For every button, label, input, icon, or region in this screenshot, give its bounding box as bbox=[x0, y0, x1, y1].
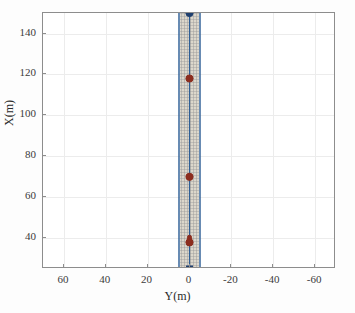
y-axis-title: X(m) bbox=[2, 100, 17, 126]
x-axis-tick-label: -20 bbox=[210, 273, 250, 285]
obstacle-markers-marker bbox=[186, 75, 193, 82]
y-axis-tick-label: 40 bbox=[12, 230, 36, 242]
y-axis-tick-mark bbox=[42, 237, 46, 238]
figure-canvas: 4060801001201406040200-20-40-60 X(m) Y(m… bbox=[0, 0, 355, 313]
x-axis-tick-label: -60 bbox=[294, 273, 334, 285]
y-axis-tick-mark bbox=[42, 114, 46, 115]
x-axis-tick-mark bbox=[147, 264, 148, 268]
vehicle-goal-marker-marker bbox=[186, 12, 193, 17]
y-axis-tick-label: 120 bbox=[12, 66, 36, 78]
ego-vehicle-body bbox=[187, 235, 191, 245]
obstacle-markers-marker bbox=[186, 173, 193, 180]
y-axis-tick-label: 140 bbox=[12, 26, 36, 38]
x-axis-tick-mark bbox=[314, 264, 315, 268]
x-axis-tick-mark bbox=[105, 264, 106, 268]
x-axis-tick-label: 0 bbox=[169, 273, 209, 285]
x-axis-tick-mark bbox=[230, 264, 231, 268]
y-axis-tick-label: 80 bbox=[12, 148, 36, 160]
vehicle-start-marker-marker bbox=[187, 266, 193, 268]
y-axis-tick-mark bbox=[42, 155, 46, 156]
x-axis-tick-mark bbox=[189, 264, 190, 268]
x-axis-title: Y(m) bbox=[0, 289, 355, 304]
y-axis-tick-mark bbox=[42, 196, 46, 197]
x-axis-tick-label: -40 bbox=[252, 273, 292, 285]
x-axis-tick-label: 20 bbox=[127, 273, 167, 285]
series-layer bbox=[43, 13, 334, 267]
y-axis-tick-mark bbox=[42, 33, 46, 34]
x-axis-tick-mark bbox=[63, 264, 64, 268]
plot-axes bbox=[42, 12, 335, 268]
y-axis-tick-label: 60 bbox=[12, 189, 36, 201]
y-axis-tick-mark bbox=[42, 73, 46, 74]
x-axis-tick-mark bbox=[272, 264, 273, 268]
x-axis-tick-label: 40 bbox=[85, 273, 125, 285]
x-axis-tick-label: 60 bbox=[43, 273, 83, 285]
